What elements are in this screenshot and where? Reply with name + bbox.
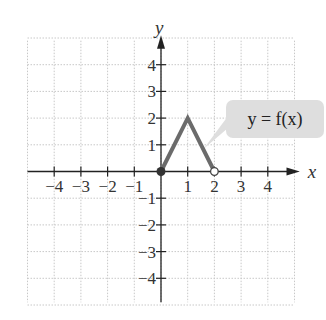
x-tick-label: 2	[210, 177, 219, 196]
x-tick-label: 3	[237, 177, 246, 196]
x-tick-label: 4	[264, 177, 273, 196]
y-axis-label: y	[153, 17, 164, 38]
y-tick-label: 3	[148, 82, 157, 101]
callout-label: y = f(x)	[247, 109, 302, 130]
y-tick-label: −2	[138, 216, 156, 235]
coordinate-plane: xy −4−3−2−112344321−1−2−3−4	[0, 0, 326, 320]
y-tick-label: 4	[148, 56, 157, 75]
y-tick-label: −1	[138, 189, 156, 208]
x-tick-label: −4	[45, 177, 64, 196]
x-tick-label: 1	[183, 177, 192, 196]
y-tick-label: −3	[138, 243, 156, 262]
function-graph	[157, 116, 229, 176]
y-tick-label: −4	[138, 269, 157, 288]
x-tick-label: −3	[72, 177, 90, 196]
x-tick-label: −2	[99, 177, 117, 196]
y-tick-label: 1	[148, 136, 157, 155]
x-axis-label: x	[307, 161, 317, 182]
y-tick-label: 2	[148, 109, 157, 128]
function-callout: y = f(x)	[226, 100, 324, 138]
axes: xy	[28, 17, 317, 302]
